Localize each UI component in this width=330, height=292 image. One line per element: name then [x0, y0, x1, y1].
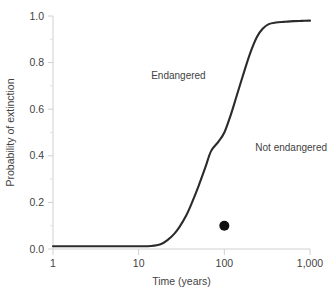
y-tick-label: 0.2: [29, 196, 44, 208]
y-tick-label: 0.0: [29, 243, 44, 255]
extinction-probability-chart: 0.00.20.40.60.81.0 1101001,000 Endangere…: [0, 0, 330, 292]
x-tick-label: 1,000: [297, 257, 323, 269]
x-tick-label: 10: [133, 257, 145, 269]
x-tick-label: 1: [50, 257, 56, 269]
chart-canvas: 0.00.20.40.60.81.0 1101001,000 Endangere…: [0, 0, 330, 292]
y-tick-label: 0.4: [29, 149, 44, 161]
chart-data-points: [219, 221, 229, 231]
annotation-not-endangered: Not endangered: [255, 142, 327, 153]
annotation-endangered: Endangered: [151, 70, 206, 81]
data-point-observed-species-point: [219, 221, 229, 231]
x-axis-title: Time (years): [152, 275, 211, 287]
y-axis-title: Probability of extinction: [4, 78, 16, 186]
x-tick-label: 100: [216, 257, 234, 269]
y-tick-label: 0.6: [29, 103, 44, 115]
y-tick-label: 0.8: [29, 56, 44, 68]
y-tick-label: 1.0: [29, 10, 44, 22]
